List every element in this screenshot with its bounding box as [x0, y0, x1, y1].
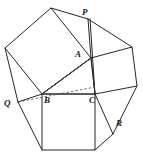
Q-to-sqBC-bottomleft [18, 102, 42, 150]
R-to-sqBC-bottomright [95, 134, 113, 150]
square-on-AC [91, 47, 137, 94]
P-to-sqAC-outer1 [88, 19, 132, 47]
vertex-label-Q: Q [4, 99, 11, 108]
Q-to-B [18, 94, 42, 102]
squares-group [5, 8, 137, 150]
vertex-label-C: C [89, 96, 95, 105]
R-to-C [95, 94, 113, 134]
dashed-lines-group [18, 58, 95, 102]
vertex-label-P: P [82, 8, 88, 17]
solid-lines-group [5, 8, 137, 150]
vertex-label-A: A [75, 50, 81, 59]
vertex-label-B: B [44, 96, 50, 105]
geometry-canvas [0, 0, 143, 159]
geometry-figure: P A Q B C R [0, 0, 143, 159]
vertex-label-R: R [116, 119, 122, 128]
